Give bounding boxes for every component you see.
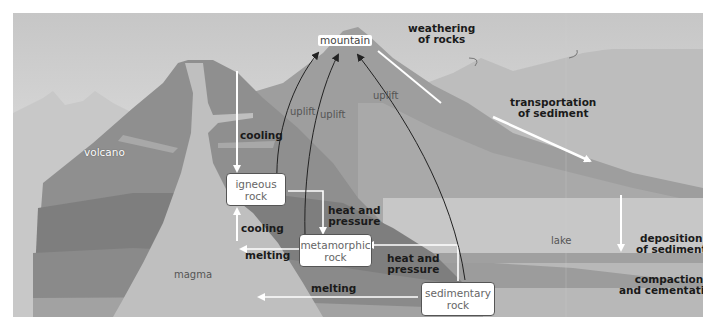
melting-label-sedimentary: melting bbox=[311, 283, 356, 294]
rock-cycle-diagram: mountain volcano magma lake weathering o… bbox=[13, 13, 703, 317]
uplift-label-3: uplift bbox=[373, 90, 399, 101]
lake-label: lake bbox=[551, 235, 572, 246]
compaction-label: compaction and cementation bbox=[619, 274, 703, 296]
volcano-label: volcano bbox=[82, 147, 127, 158]
magma-label: magma bbox=[174, 269, 212, 280]
igneous-rock-box: igneous rock bbox=[226, 173, 286, 206]
deposition-label: deposition of sediment bbox=[636, 233, 703, 255]
uplift-label-1: uplift bbox=[290, 106, 316, 117]
melting-label-metamorphic: melting bbox=[245, 250, 290, 261]
weathering-label: weathering of rocks bbox=[408, 23, 475, 45]
metamorphic-rock-box: metamorphic rock bbox=[299, 234, 372, 267]
heat-pressure-label-2: heat and pressure bbox=[387, 253, 439, 275]
cooling-label-bottom: cooling bbox=[241, 223, 284, 234]
transportation-label: transportation of sediment bbox=[510, 97, 596, 119]
uplift-label-2: uplift bbox=[320, 109, 346, 120]
heat-pressure-label-1: heat and pressure bbox=[328, 205, 380, 227]
mountain-label: mountain bbox=[318, 35, 372, 46]
cooling-label-top: cooling bbox=[240, 130, 283, 141]
rock-cycle-illustration bbox=[13, 13, 703, 317]
sedimentary-rock-box: sedimentary rock bbox=[421, 282, 495, 316]
